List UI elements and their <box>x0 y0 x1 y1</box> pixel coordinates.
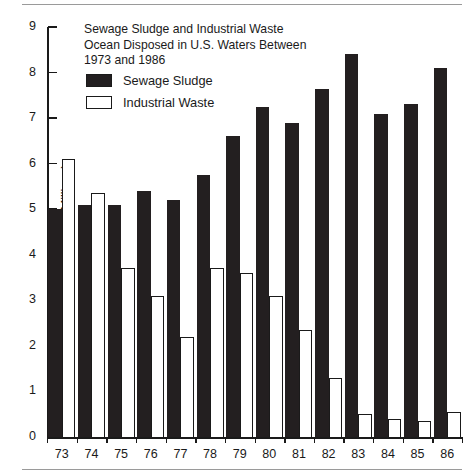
bar-industrial-waste <box>91 193 104 437</box>
bar-sewage-sludge <box>434 68 447 437</box>
x-axis-tick <box>373 437 374 443</box>
y-axis-tick-label: 1 <box>8 384 36 397</box>
bar-industrial-waste <box>358 414 371 437</box>
bar-group <box>314 27 344 437</box>
bar-industrial-waste <box>151 296 164 437</box>
bar-industrial-waste <box>299 330 312 437</box>
y-axis-tick-label: 0 <box>8 430 36 443</box>
bar-group <box>77 27 107 437</box>
bar-group <box>373 27 403 437</box>
bar-industrial-waste <box>121 268 134 437</box>
x-axis-tick <box>284 437 285 443</box>
x-axis-tick <box>47 437 48 443</box>
x-axis-tick <box>225 437 226 443</box>
bar-industrial-waste <box>269 296 282 437</box>
x-axis-tick <box>462 437 463 443</box>
y-axis-tick-label: 9 <box>8 20 36 33</box>
x-axis-tick <box>195 437 196 443</box>
bar-industrial-waste <box>62 159 75 437</box>
bar-group <box>106 27 136 437</box>
top-divider-rule <box>22 4 462 5</box>
bar-group <box>195 27 225 437</box>
x-axis-tick <box>343 437 344 443</box>
bar-industrial-waste <box>180 337 193 437</box>
bar-group <box>225 27 255 437</box>
x-axis-tick <box>314 437 315 443</box>
bar-industrial-waste <box>329 378 342 437</box>
bar-industrial-waste <box>418 421 431 437</box>
bar-group <box>47 27 77 437</box>
bar-group <box>136 27 166 437</box>
bar-sewage-sludge <box>285 123 298 437</box>
bar-group <box>255 27 285 437</box>
x-axis-tick <box>136 437 137 443</box>
bar-sewage-sludge <box>108 205 121 437</box>
bar-group <box>403 27 433 437</box>
bar-sewage-sludge <box>197 175 210 437</box>
bar-sewage-sludge <box>256 107 269 437</box>
x-axis-tick <box>77 437 78 443</box>
y-axis-tick-label: 6 <box>8 157 36 170</box>
x-axis-tick <box>403 437 404 443</box>
y-axis-tick-label: 5 <box>8 202 36 215</box>
bar-sewage-sludge <box>78 205 91 437</box>
bar-sewage-sludge <box>404 104 417 437</box>
bar-sewage-sludge <box>315 89 328 438</box>
bar-sewage-sludge <box>137 191 150 437</box>
bar-industrial-waste <box>388 419 401 437</box>
chart-page: Sewage Sludge and Industrial Waste Ocean… <box>0 0 473 476</box>
bar-group <box>284 27 314 437</box>
bar-sewage-sludge <box>374 114 387 437</box>
x-axis-tick <box>106 437 107 443</box>
bottom-divider-rule <box>22 469 462 470</box>
x-axis-tick <box>432 437 433 443</box>
y-axis-tick-label: 8 <box>8 66 36 79</box>
bar-sewage-sludge <box>226 136 239 437</box>
bar-sewage-sludge <box>48 209 61 437</box>
y-axis-tick-label: 7 <box>8 111 36 124</box>
bar-group <box>432 27 462 437</box>
plot-area <box>47 27 462 437</box>
x-axis-tick-label: 86 <box>430 448 464 461</box>
x-axis-tick <box>255 437 256 443</box>
bar-group <box>343 27 373 437</box>
bar-group <box>166 27 196 437</box>
y-axis-tick-label: 3 <box>8 293 36 306</box>
bar-industrial-waste <box>447 412 460 437</box>
bar-industrial-waste <box>210 268 223 437</box>
bar-industrial-waste <box>240 273 253 437</box>
y-axis-tick-label: 4 <box>8 248 36 261</box>
bar-sewage-sludge <box>345 54 358 437</box>
y-axis-tick-label: 2 <box>8 339 36 352</box>
bar-sewage-sludge <box>167 200 180 437</box>
x-axis-tick <box>166 437 167 443</box>
